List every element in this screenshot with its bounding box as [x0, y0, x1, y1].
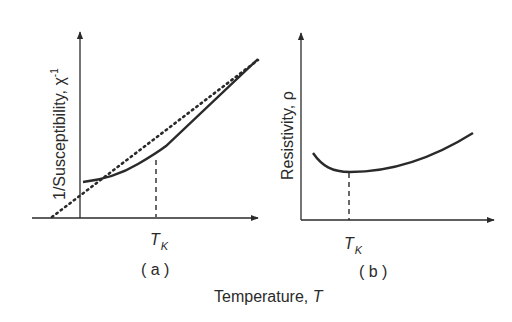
x-label-text: Temperature,: [214, 288, 313, 305]
panel-a-dotted-extrapolation: [52, 60, 258, 217]
panel-b-caption: ( b ): [359, 264, 387, 280]
tk-subscript: K: [355, 244, 362, 256]
panel-b-solid-curve: [313, 133, 473, 172]
figure-canvas: [0, 0, 512, 322]
panel-a-y-label-sup: -1: [49, 68, 60, 77]
shared-x-axis-label: Temperature, T: [214, 289, 323, 305]
tk-symbol: T: [150, 231, 160, 248]
panel-a-caption: ( a ): [141, 262, 169, 278]
panel-a-tk-tick-label: TK: [150, 232, 167, 248]
panel-b: [301, 33, 494, 220]
tk-subscript: K: [161, 240, 168, 252]
panel-a-solid-curve: [83, 59, 258, 182]
panel-a-y-label: 1/Susceptibility, χ-1: [52, 68, 68, 200]
x-label-symbol: T: [313, 288, 323, 305]
panel-b-tk-tick-label: TK: [344, 236, 361, 252]
panel-a-y-label-text: 1/Susceptibility, χ: [51, 77, 68, 200]
tk-symbol: T: [344, 235, 354, 252]
panel-b-y-label: Resistivity, ρ: [280, 91, 296, 180]
